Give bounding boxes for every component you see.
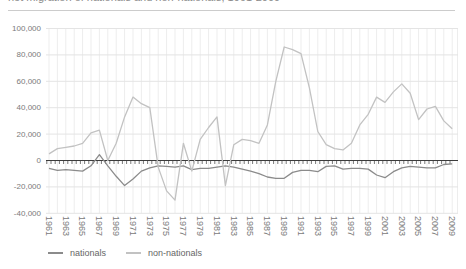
x-axis-tick-label: 1979 [195, 216, 205, 236]
line-chart-canvas: 100,00080,00060,00040,00020,0000-20,000-… [0, 0, 466, 248]
x-axis-tick-label: 2005 [413, 216, 423, 236]
x-axis-tick-label: 1981 [212, 216, 222, 236]
x-axis-tick-label: 2009 [447, 216, 457, 236]
y-axis-tick-label: 0 [37, 156, 42, 165]
x-axis-tick-label: 1995 [329, 216, 339, 236]
x-axis-tick-label: 1997 [346, 216, 356, 236]
x-axis-tick-label: 1991 [296, 216, 306, 236]
y-axis-tick-label: 100,000 [12, 24, 41, 33]
x-axis-tick-label: 1963 [61, 216, 71, 236]
nationals-line-swatch [48, 252, 63, 254]
x-axis-tick-label: 1975 [161, 216, 171, 236]
y-axis-tick-label: 60,000 [17, 77, 42, 86]
x-axis-tick-label: 1993 [313, 216, 323, 236]
x-axis-tick-label: 1967 [94, 216, 104, 236]
x-axis-tick-label: 2007 [430, 216, 440, 236]
non-nationals-line-swatch [126, 252, 141, 254]
x-axis-tick-label: 1965 [77, 216, 87, 236]
legend-label-nationals: nationals [70, 248, 106, 258]
x-axis-tick-label: 1971 [128, 216, 138, 236]
migration-line-chart-figure: net migration of nationals and non-natio… [0, 0, 466, 269]
x-axis-tick-label: 1987 [262, 216, 272, 236]
x-axis-tick-label: 1999 [363, 216, 373, 236]
legend: nationals non-nationals [48, 248, 202, 258]
x-axis-tick-label: 1983 [229, 216, 239, 236]
y-axis-tick-label: 80,000 [17, 50, 42, 59]
x-axis-tick-label: 1985 [245, 216, 255, 236]
y-axis-tick-label: 40,000 [17, 103, 42, 112]
y-axis-tick-label: -20,000 [14, 182, 42, 191]
x-axis-tick-label: 1969 [111, 216, 121, 236]
y-axis-tick-label: -40,000 [14, 209, 42, 218]
legend-label-non-nationals: non-nationals [148, 248, 202, 258]
x-axis-tick-label: 1989 [279, 216, 289, 236]
x-axis-tick-label: 2003 [397, 216, 407, 236]
x-axis-tick-label: 2001 [380, 216, 390, 236]
legend-item-nationals: nationals [48, 248, 106, 258]
x-axis-tick-label: 1961 [44, 216, 54, 236]
y-axis-tick-label: 20,000 [17, 130, 42, 139]
legend-item-non-nationals: non-nationals [126, 248, 202, 258]
x-axis-tick-label: 1973 [145, 216, 155, 236]
x-axis-tick-label: 1977 [178, 216, 188, 236]
